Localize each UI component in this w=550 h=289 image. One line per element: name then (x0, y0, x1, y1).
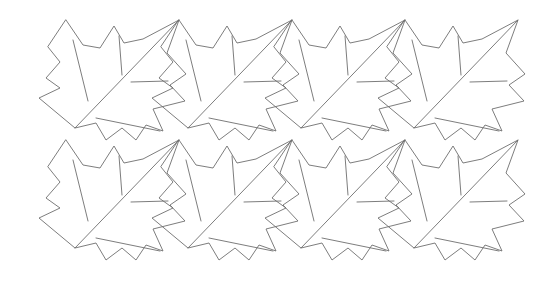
artboard (0, 0, 550, 289)
canvas-background (0, 0, 550, 289)
tessellation-drawing (0, 0, 550, 289)
